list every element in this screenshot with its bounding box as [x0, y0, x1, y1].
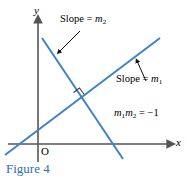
product-var-1: m: [114, 107, 122, 118]
line-slope-m1: [5, 38, 160, 155]
slope-m1-subscript: 1: [159, 78, 163, 86]
slope-m2-annotation: Slope = m2: [60, 14, 106, 26]
slope-product-equation: m1m2 = −1: [114, 108, 159, 120]
line-slope-m2: [42, 38, 123, 159]
slope-m2-subscript: 2: [103, 18, 107, 26]
figure-graphic: [0, 0, 190, 182]
slope-m1-annotation: Slope = m1: [116, 74, 162, 86]
slope-m1-variable: m: [151, 73, 159, 84]
y-axis-label: y: [34, 5, 39, 16]
figure-caption: Figure 4: [6, 161, 50, 177]
slope-m2-variable: m: [95, 13, 103, 24]
product-var-2: m: [125, 107, 133, 118]
slope-m2-prefix: Slope =: [60, 13, 95, 24]
origin-label: O: [41, 146, 49, 157]
product-value: −1: [147, 107, 158, 118]
product-equals: =: [136, 107, 147, 118]
slope-m1-prefix: Slope =: [116, 73, 151, 84]
figure-container: y x O Slope = m2 Slope = m1 m1m2 = −1 Fi…: [0, 0, 190, 182]
x-axis-label: x: [176, 137, 181, 148]
leader-line-m2: [59, 31, 80, 52]
